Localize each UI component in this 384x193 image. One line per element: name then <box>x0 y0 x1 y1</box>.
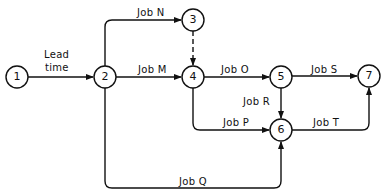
node-5-label: 5 <box>270 66 292 88</box>
edge-label-job-p: Job P <box>223 117 249 128</box>
node-4-label: 4 <box>182 66 204 88</box>
edge-label-job-m: Job M <box>138 64 167 75</box>
node-7-label: 7 <box>358 65 380 87</box>
node-6-label: 6 <box>270 119 292 141</box>
edge-label-job-n: Job N <box>137 7 165 18</box>
node-3-label: 3 <box>182 9 204 31</box>
edge-job-n <box>105 20 181 66</box>
edge-label-job-s: Job S <box>311 64 337 75</box>
edge-label-time: time <box>45 62 69 73</box>
edge-label-job-q: Job Q <box>179 176 207 187</box>
edge-label-lead: Lead <box>44 49 69 60</box>
edge-label-job-o: Job O <box>221 64 249 75</box>
node-1-label: 1 <box>6 66 28 88</box>
edge-label-job-r: Job R <box>243 96 270 107</box>
edge-label-job-t: Job T <box>313 117 339 128</box>
node-2-label: 2 <box>94 66 116 88</box>
